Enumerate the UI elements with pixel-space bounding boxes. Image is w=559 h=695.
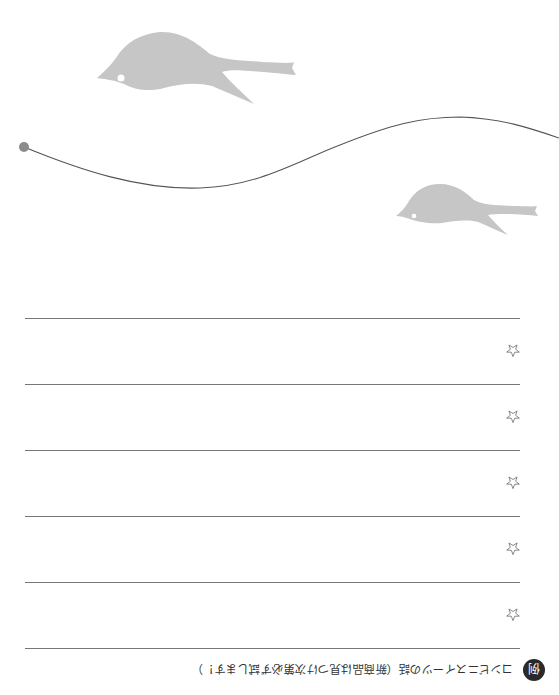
writing-line-1 <box>25 318 520 319</box>
large-bird-icon <box>97 32 296 104</box>
decorative-header <box>0 0 559 260</box>
writing-line-4 <box>25 516 520 517</box>
curve-end-dot-icon <box>19 142 29 152</box>
writing-line-2 <box>25 384 520 385</box>
writing-line-5 <box>25 582 520 583</box>
writing-sheet: 例 コンビニスイーツの話（新商品は見つけ次第必ず試します！） <box>0 0 559 695</box>
example-badge: 例 <box>523 659 545 681</box>
example-caption: 例 コンビニスイーツの話（新商品は見つけ次第必ず試します！） <box>150 650 545 690</box>
example-text: コンビニスイーツの話（新商品は見つけ次第必ず試します！） <box>191 662 513 678</box>
writing-line-6 <box>25 648 520 649</box>
star-icon <box>506 608 520 622</box>
star-icon <box>506 476 520 490</box>
star-icon <box>506 410 520 424</box>
writing-line-3 <box>25 450 520 451</box>
wavy-line <box>24 117 559 188</box>
star-icon <box>506 542 520 556</box>
small-bird-icon <box>396 184 538 235</box>
star-icon <box>506 344 520 358</box>
